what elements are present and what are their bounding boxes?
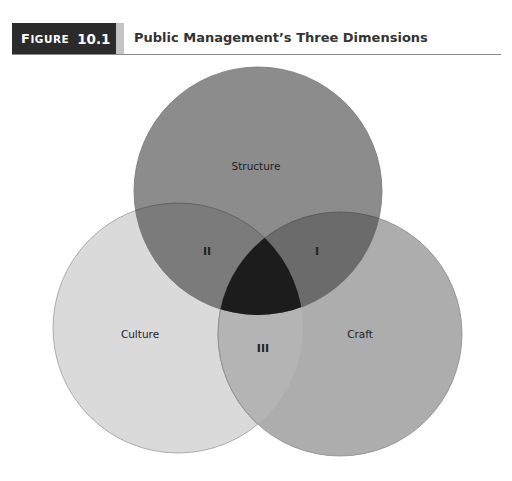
label-region-I: I [315,245,319,258]
label-structure: Structure [232,160,281,172]
label-region-III: III [257,342,269,355]
label-craft: Craft [347,328,373,340]
label-culture: Culture [121,328,159,340]
label-region-II: II [203,245,211,258]
venn-diagram: Structure Culture Craft II I III [0,0,512,481]
